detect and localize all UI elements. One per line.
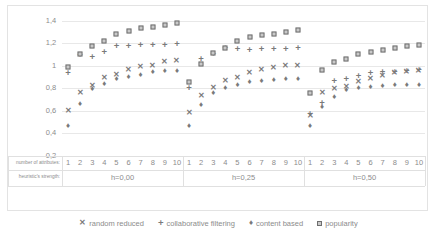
data-point: [283, 29, 288, 34]
legend-label: collaborative filtering: [167, 219, 235, 220]
data-point: +: [283, 44, 289, 54]
data-point: ♦: [235, 81, 239, 89]
data-point: ♦: [66, 122, 70, 130]
x-axis-group-label: h=0,50: [304, 173, 425, 182]
data-point: +: [247, 45, 253, 55]
data-point: +: [174, 39, 180, 49]
data-point: +: [65, 69, 71, 79]
data-point: ✕: [294, 62, 301, 70]
axis-table-separator: [8, 186, 425, 187]
data-point: ✕: [173, 57, 180, 65]
legend-item[interactable]: popularity: [317, 219, 358, 220]
data-point: ✕: [77, 89, 84, 97]
data-point: ♦: [187, 122, 191, 130]
y-axis-tick-label: 0,8: [18, 83, 56, 92]
gridline: [62, 111, 425, 112]
data-point: +: [344, 74, 350, 84]
legend-label: content based: [256, 219, 303, 220]
data-point: [174, 20, 179, 25]
gridline: [62, 133, 425, 134]
y-axis-tick-label: 1,2: [18, 38, 56, 47]
data-point: [211, 51, 216, 56]
data-point: ♦: [272, 76, 276, 84]
legend-label: popularity: [325, 219, 358, 220]
y-axis-tick-label: 1: [18, 61, 56, 70]
data-point: ♦: [102, 80, 106, 88]
data-point: [259, 33, 264, 38]
data-point: ✕: [198, 92, 205, 100]
data-point: ♦: [284, 75, 288, 83]
data-point: ♦: [308, 122, 312, 130]
data-point: +: [295, 43, 301, 53]
data-point: ♦: [356, 84, 360, 92]
data-point: ♦: [332, 93, 336, 101]
axis-table-separator: [8, 156, 425, 157]
data-point: ♦: [163, 67, 167, 75]
data-point: +: [368, 69, 374, 79]
data-point: +: [235, 44, 241, 54]
x-axis-row-label-attributes: number of attributes:: [10, 159, 60, 165]
data-point: ♦: [381, 82, 385, 90]
x-axis-tick-label: 10: [409, 158, 429, 167]
data-point: [320, 68, 325, 73]
data-point: [356, 52, 361, 57]
data-point: ✕: [186, 109, 193, 117]
data-point: +: [138, 41, 144, 51]
gridline: [62, 66, 425, 67]
data-point: [368, 50, 373, 55]
data-point: [380, 47, 385, 52]
data-point: [332, 60, 337, 65]
data-point: ♦: [211, 89, 215, 97]
data-point: +: [114, 42, 120, 52]
plus-marker-icon: +: [158, 218, 164, 219]
data-point: +: [392, 68, 398, 78]
data-point: ♦: [175, 67, 179, 75]
data-point: ♦: [127, 73, 131, 81]
data-point: ♦: [199, 101, 203, 109]
y-axis-tick-label: 0,6: [18, 106, 56, 115]
data-point: [102, 38, 107, 43]
data-point: [404, 44, 409, 49]
data-point: +: [331, 77, 337, 87]
data-point: ✕: [161, 58, 168, 66]
axis-table-separator: [8, 170, 425, 171]
data-point: [126, 28, 131, 33]
x-axis-group-label: h=0,25: [183, 173, 304, 182]
data-point: ♦: [248, 78, 252, 86]
data-point: [150, 25, 155, 30]
data-point: [247, 35, 252, 40]
data-point: ✕: [282, 62, 289, 70]
data-point: ✕: [246, 69, 253, 77]
data-point: ✕: [319, 89, 326, 97]
y-axis-tick-label: 1,4: [18, 16, 56, 25]
data-point: +: [271, 44, 277, 54]
data-point: ♦: [260, 77, 264, 85]
legend-item[interactable]: ♦content based: [249, 219, 303, 220]
data-point: ♦: [296, 75, 300, 83]
legend-item[interactable]: +collaborative filtering: [158, 218, 235, 219]
data-point: [344, 56, 349, 61]
data-point: +: [404, 66, 410, 76]
data-point: +: [259, 44, 265, 54]
data-point: ♦: [90, 85, 94, 93]
y-axis-tick-label: 0,4: [18, 128, 56, 137]
gridline: [62, 21, 425, 22]
data-point: ✕: [65, 107, 72, 115]
data-point: +: [380, 68, 386, 78]
x-axis-group-label: h=0,00: [62, 173, 183, 182]
data-point: [90, 44, 95, 49]
data-point: +: [307, 109, 313, 119]
scatter-chart: 1,41,210,80,60,40,2number of attributes:…: [0, 0, 437, 219]
data-point: ✕: [270, 64, 277, 72]
data-point: ♦: [369, 83, 373, 91]
data-point: [223, 45, 228, 50]
data-point: ♦: [344, 86, 348, 94]
data-point: [66, 64, 71, 69]
data-point: [235, 38, 240, 43]
data-point: +: [416, 65, 422, 75]
data-point: ♦: [223, 84, 227, 92]
data-point: ♦: [320, 103, 324, 111]
legend-item[interactable]: ✕random reduced: [79, 219, 144, 220]
data-point: +: [150, 41, 156, 51]
data-point: [416, 43, 421, 48]
